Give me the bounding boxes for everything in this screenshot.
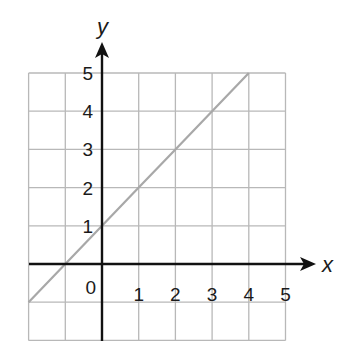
x-tick-label: 5 xyxy=(280,284,291,305)
x-axis xyxy=(29,257,316,271)
coordinate-plane: x y 012345 12345 xyxy=(0,0,347,356)
x-axis-label: x xyxy=(321,252,334,277)
y-tick-labels: 12345 xyxy=(82,63,93,237)
y-axis xyxy=(95,42,109,341)
x-tick-label: 0 xyxy=(85,277,96,298)
x-tick-labels: 012345 xyxy=(85,277,290,305)
y-tick-label: 4 xyxy=(82,101,93,122)
x-tick-label: 2 xyxy=(170,284,181,305)
y-tick-label: 3 xyxy=(82,139,93,160)
y-tick-label: 5 xyxy=(82,63,93,84)
x-tick-label: 1 xyxy=(133,284,144,305)
x-tick-label: 4 xyxy=(244,284,255,305)
x-tick-label: 3 xyxy=(207,284,218,305)
y-axis-label: y xyxy=(95,14,110,39)
y-tick-label: 1 xyxy=(82,216,93,237)
y-tick-label: 2 xyxy=(82,178,93,199)
